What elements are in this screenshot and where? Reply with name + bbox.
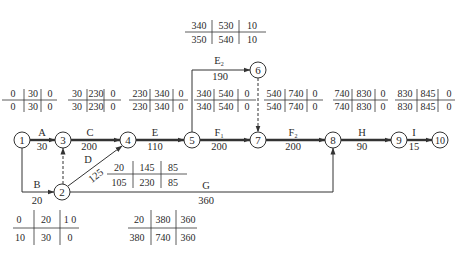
table-E-ff: 0 [179,101,184,112]
node-10-label: 10 [435,135,445,146]
table-C-lf: 230 [89,101,104,112]
node-labels: 1 2 3 4 5 6 7 8 9 10 [19,64,445,198]
table-H-tf: 0 [381,88,386,99]
table-G-tf: 360 [181,214,196,225]
label-G-duration: 360 [198,195,214,206]
table-B-ff: 0 [68,232,73,243]
table-H-es: 740 [335,88,350,99]
table-I-es: 830 [398,88,413,99]
label-E-duration: 110 [147,141,162,152]
node-9-label: 9 [396,134,402,146]
table-I-ef: 845 [421,88,436,99]
table-E-ls: 230 [133,101,148,112]
table-C-ls: 30 [72,101,82,112]
node-1-label: 1 [19,134,25,146]
node-2-label: 2 [59,186,65,198]
table-C-ef: 230 [89,88,104,99]
node-7-label: 7 [255,134,261,146]
table-A-ff: 0 [48,101,53,112]
label-F2-sub: 2 [294,133,297,139]
node-5-label: 5 [189,134,195,146]
table-D-ls: 105 [112,177,127,188]
table-E-es: 230 [133,88,148,99]
table-A-ef: 30 [28,88,38,99]
label-F1: F1 [215,127,224,139]
label-F2: F2 [289,127,298,139]
label-H-duration: 90 [357,141,368,152]
node-3-label: 3 [60,134,66,146]
table-F2-es: 540 [267,88,282,99]
label-I: I [412,127,416,138]
label-E2-sub: 2 [221,61,224,67]
table-F2-lf: 740 [289,101,304,112]
node-4-label: 4 [125,134,131,146]
table-F1-ff: 0 [245,101,250,112]
table-H-lf: 830 [357,101,372,112]
table-F2-ls: 540 [267,101,282,112]
node-8-label: 8 [330,134,336,146]
table-I-tf: 0 [447,88,452,99]
table-F2-ef: 740 [289,88,304,99]
table-B-ls: 10 [15,232,25,243]
table-D-ef: 145 [140,162,155,173]
table-D-lf: 230 [140,177,155,188]
table-F2-ff: 0 [313,101,318,112]
table-I-ff: 0 [447,101,452,112]
label-D-duration: 125 [86,166,105,184]
label-D: D [84,154,92,165]
label-A-duration: 30 [37,141,48,152]
label-E2: E2 [214,55,223,67]
node-6-label: 6 [255,64,261,76]
label-C-duration: 200 [81,141,97,152]
label-H: H [358,127,366,138]
table-A-lf: 30 [28,101,38,112]
table-C-ff: 0 [111,101,116,112]
table-C-tf: 0 [111,88,116,99]
table-E2-ff: 10 [247,34,257,45]
label-C: C [86,127,93,138]
table-B-lf: 30 [41,232,51,243]
table-E2-ls: 350 [192,34,207,45]
table-E2-tf: 10 [247,20,257,31]
table-F1-ef: 540 [219,88,234,99]
label-A: A [38,127,46,138]
table-F1-ls: 340 [197,101,212,112]
time-tables [2,20,455,245]
label-F1-sub: 1 [220,133,223,139]
activity-labels: A 30 C 200 E 110 F1 200 F2 200 H 90 I 15… [32,55,420,206]
table-G-lf: 740 [156,232,171,243]
table-E2-ef: 530 [219,20,234,31]
table-A-es: 0 [11,88,16,99]
label-I-duration: 15 [409,141,420,152]
table-D-es: 20 [114,162,124,173]
label-G: G [202,180,210,191]
table-C-es: 30 [72,88,82,99]
label-E2-duration: 190 [212,71,228,82]
table-H-ff: 0 [381,101,386,112]
label-F1-duration: 200 [211,141,227,152]
time-table-values: 0 30 0 0 30 0 30 230 0 30 230 0 230 340 … [11,20,452,243]
table-F1-es: 340 [197,88,212,99]
table-H-ef: 830 [357,88,372,99]
table-G-ef: 380 [156,214,171,225]
label-E: E [152,127,158,138]
table-F2-tf: 0 [313,88,318,99]
network-diagram: 1 2 3 4 5 6 7 8 9 10 A 30 C 200 E 110 F1… [0,0,467,257]
table-D-ff: 85 [168,177,178,188]
table-B-tf: 1 0 [64,214,77,225]
table-E-ef: 340 [155,88,170,99]
label-B: B [33,179,40,190]
table-E2-es: 340 [192,20,207,31]
table-H-ls: 740 [335,101,350,112]
table-E-lf: 340 [155,101,170,112]
table-A-tf: 0 [48,88,53,99]
nodes [14,62,448,200]
label-F2-duration: 200 [285,141,301,152]
table-E2-lf: 540 [219,34,234,45]
table-G-es: 20 [134,214,144,225]
table-I-lf: 845 [421,101,436,112]
table-G-ff: 360 [181,232,196,243]
table-F1-lf: 540 [219,101,234,112]
table-B-ef: 20 [41,214,51,225]
table-D-tf: 85 [168,162,178,173]
